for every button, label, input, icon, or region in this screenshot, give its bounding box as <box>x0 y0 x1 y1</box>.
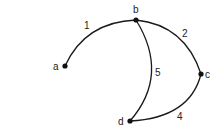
node-c <box>198 71 203 76</box>
edge-label-b-c: 2 <box>182 28 188 39</box>
node-label-b: b <box>133 4 139 15</box>
node-label-d: d <box>118 116 124 127</box>
node-a <box>62 63 67 68</box>
node-label-a: a <box>53 61 59 72</box>
edge-b-c <box>136 20 201 74</box>
node-d <box>127 118 132 123</box>
edge-c-d <box>130 74 201 121</box>
graph-diagram: a b c d 1 2 5 4 <box>0 0 221 140</box>
edge-label-b-d: 5 <box>155 67 161 78</box>
edge-label-a-b: 1 <box>84 20 90 31</box>
edge-b-d <box>130 20 152 121</box>
edge-label-c-d: 4 <box>177 111 183 122</box>
edge-a-b <box>65 20 136 66</box>
node-label-c: c <box>205 69 210 80</box>
node-b <box>133 17 138 22</box>
